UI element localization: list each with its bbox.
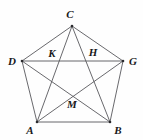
side-C-D [22,26,72,61]
side-G-B [110,61,123,122]
point-label-a: A [26,125,33,136]
pentagon-diagram-canvas [0,0,143,140]
point-label-g: G [129,56,137,67]
vertex-dot-a [36,121,39,124]
vertex-dot-c [71,25,74,28]
vertex-dot-g [122,60,125,63]
point-label-d: D [8,56,16,67]
vertex-dot-d [21,60,24,63]
diagonal-A-G [37,61,123,122]
geometry-figure: CDGABKHM [0,0,143,140]
point-label-c: C [66,9,73,20]
point-label-m: M [67,99,77,110]
point-label-b: B [114,125,121,136]
point-label-h: H [89,47,98,58]
vertex-dot-b [109,121,112,124]
point-label-k: K [48,48,55,59]
